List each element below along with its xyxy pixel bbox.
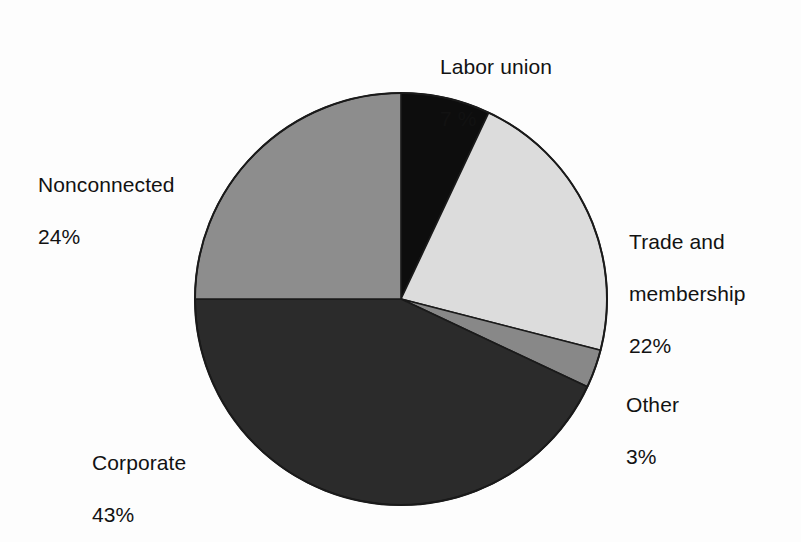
slice-label-labor-union-value: 7 % [440,106,552,132]
slice-label-trade-name-line1: Trade and [629,229,746,255]
slice-label-trade-name-line2: membership [629,281,746,307]
slice-label-trade-value: 22% [629,333,746,359]
slice-label-labor-union: Labor union 7 % [440,28,552,158]
slice-label-labor-union-name: Labor union [440,54,552,80]
slice-label-nonconnected: Nonconnected 24% [38,146,175,276]
pie-slice-nonconnected [195,93,401,299]
slice-label-other-value: 3% [626,444,679,470]
slice-label-other-name: Other [626,392,679,418]
slice-label-corporate-value: 43% [92,502,186,528]
slice-label-corporate-name: Corporate [92,450,186,476]
slice-label-nonconnected-value: 24% [38,224,175,250]
slice-label-other: Other 3% [626,366,679,496]
slice-label-trade-and-membership: Trade and membership 22% [629,203,746,385]
slice-label-nonconnected-name: Nonconnected [38,172,175,198]
pie-chart-figure: Labor union 7 % Trade and membership 22%… [0,0,801,542]
slice-label-corporate: Corporate 43% [92,424,186,542]
